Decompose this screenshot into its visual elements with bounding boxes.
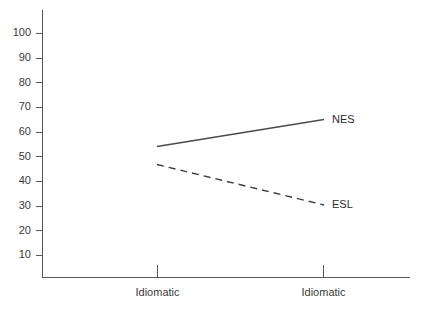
series-label-nes: NES bbox=[332, 113, 355, 125]
y-tick-label-60: 60 bbox=[19, 125, 31, 137]
x-tick-label-2: Idiomatic bbox=[301, 286, 346, 298]
x-tick-label-1: Idiomatic bbox=[135, 286, 180, 298]
chart-canvas: 100 90 80 70 60 50 40 30 20 10 Idiomatic… bbox=[0, 0, 422, 311]
y-tick-label-10: 10 bbox=[19, 248, 31, 260]
x-axis-tick-labels: Idiomatic Idiomatic bbox=[135, 286, 346, 298]
series-line-nes bbox=[157, 120, 324, 147]
y-tick-label-30: 30 bbox=[19, 199, 31, 211]
y-tick-label-80: 80 bbox=[19, 76, 31, 88]
y-tick-label-100: 100 bbox=[13, 26, 31, 38]
y-axis-tick-labels: 100 90 80 70 60 50 40 30 20 10 bbox=[13, 26, 31, 260]
interaction-line-chart: 100 90 80 70 60 50 40 30 20 10 Idiomatic… bbox=[0, 0, 422, 311]
y-tick-label-20: 20 bbox=[19, 224, 31, 236]
x-axis-ticks bbox=[158, 265, 324, 278]
series-label-esl: ESL bbox=[332, 198, 353, 210]
y-tick-label-90: 90 bbox=[19, 51, 31, 63]
y-tick-label-50: 50 bbox=[19, 150, 31, 162]
y-tick-label-70: 70 bbox=[19, 100, 31, 112]
y-axis-ticks bbox=[36, 34, 43, 256]
series-line-esl bbox=[157, 165, 324, 206]
y-tick-label-40: 40 bbox=[19, 174, 31, 186]
